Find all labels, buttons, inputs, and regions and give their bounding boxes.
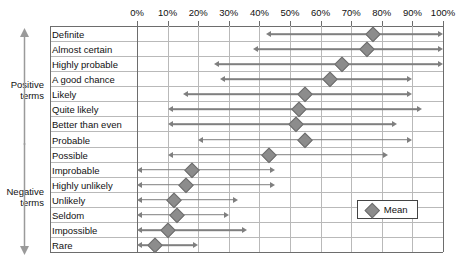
range-bar	[269, 33, 440, 35]
range-arrow-left	[266, 31, 271, 37]
range-arrow-right	[193, 242, 198, 248]
category-label: Highly unlikely	[52, 179, 113, 190]
range-arrow-right	[438, 46, 443, 52]
x-tick-label: 90%	[403, 7, 422, 18]
x-tick-label: 30%	[219, 7, 238, 18]
category-label: A good chance	[52, 74, 115, 85]
category-label: Better than even	[52, 119, 122, 130]
mean-marker	[365, 27, 380, 42]
mean-marker	[179, 177, 194, 192]
range-bar	[171, 154, 385, 156]
range-bar	[140, 184, 272, 186]
range-arrow-left	[253, 46, 258, 52]
mean-marker	[148, 238, 163, 253]
range-arrow-right	[270, 167, 275, 173]
range-arrow-left	[137, 197, 142, 203]
up-arrow-icon	[19, 28, 30, 146]
mean-marker	[298, 87, 313, 102]
mean-marker	[160, 222, 175, 237]
range-arrow-right	[407, 76, 412, 82]
x-tick-label: 0%	[130, 7, 144, 18]
category-label: Probable	[52, 134, 90, 145]
x-tick-label: 80%	[372, 7, 391, 18]
range-arrow-right	[407, 91, 412, 97]
chart-row: Quite likely	[50, 101, 443, 117]
probability-terms-chart: Positive terms Negative terms 0%10%20%30…	[0, 0, 463, 259]
chart-row: A good chance	[50, 71, 443, 87]
range-arrow-right	[383, 152, 388, 158]
chart-row: Likely	[50, 86, 443, 102]
range-arrow-left	[137, 242, 142, 248]
range-arrow-left	[137, 212, 142, 218]
range-arrow-left	[183, 91, 188, 97]
chart-row: Almost certain	[50, 41, 443, 57]
range-arrow-right	[224, 212, 229, 218]
x-tick-label: 20%	[189, 7, 208, 18]
chart-row: Probable	[50, 131, 443, 147]
range-arrow-right	[417, 106, 422, 112]
category-label: Unlikely	[52, 194, 85, 205]
axis-tick-mark	[443, 21, 444, 26]
range-arrow-left	[220, 76, 225, 82]
mean-marker	[335, 57, 350, 72]
range-arrow-left	[168, 106, 173, 112]
range-arrow-left	[168, 152, 173, 158]
category-label: Almost certain	[52, 44, 112, 55]
range-arrow-right	[242, 227, 247, 233]
category-label: Impossible	[52, 224, 97, 235]
range-arrow-left	[137, 182, 142, 188]
chart-row: Better than even	[50, 116, 443, 132]
x-tick-label: 50%	[280, 7, 299, 18]
range-arrow-right	[270, 182, 275, 188]
range-arrow-left	[137, 167, 142, 173]
category-label: Likely	[52, 89, 76, 100]
category-label: Definite	[52, 29, 84, 40]
mean-marker	[169, 207, 184, 222]
x-tick-label: 100%	[431, 7, 455, 18]
chart-row: Definite	[50, 26, 443, 42]
range-arrow-right	[438, 31, 443, 37]
range-arrow-right	[407, 137, 412, 143]
mean-marker	[292, 102, 307, 117]
range-arrow-left	[214, 61, 219, 67]
x-tick-label: 10%	[158, 7, 177, 18]
chart-row: Highly probable	[50, 56, 443, 72]
diamond-icon	[365, 202, 380, 217]
x-tick-label: 60%	[311, 7, 330, 18]
mean-marker	[166, 192, 181, 207]
legend: Mean	[357, 200, 417, 219]
range-bar	[223, 78, 410, 80]
range-bar	[256, 48, 440, 50]
range-arrow-right	[438, 61, 443, 67]
down-arrow-icon	[19, 143, 30, 255]
mean-marker	[298, 132, 313, 147]
category-label: Quite likely	[52, 104, 98, 115]
category-label: Possible	[52, 149, 88, 160]
mean-marker	[359, 42, 374, 57]
chart-row: Impossible	[50, 222, 443, 238]
mean-marker	[261, 147, 276, 162]
range-bar	[140, 169, 272, 171]
range-bar	[140, 199, 235, 201]
chart-row: Rare	[50, 237, 443, 253]
category-label: Seldom	[52, 209, 84, 220]
range-bar	[140, 229, 244, 231]
mean-marker	[289, 117, 304, 132]
range-arrow-right	[233, 197, 238, 203]
range-arrow-left	[168, 121, 173, 127]
range-bar	[171, 124, 395, 126]
mean-marker	[322, 72, 337, 87]
category-label: Highly probable	[52, 59, 118, 70]
chart-row: Improbable	[50, 162, 443, 178]
x-tick-label: 70%	[342, 7, 361, 18]
x-tick-label: 40%	[250, 7, 269, 18]
range-bar	[217, 63, 441, 65]
grid-line-vertical	[443, 26, 444, 252]
range-arrow-right	[392, 121, 397, 127]
chart-row: Highly unlikely	[50, 177, 443, 193]
range-arrow-left	[198, 137, 203, 143]
chart-row: Possible	[50, 147, 443, 163]
category-label: Improbable	[52, 164, 100, 175]
category-label: Rare	[52, 239, 73, 250]
range-arrow-left	[137, 227, 142, 233]
